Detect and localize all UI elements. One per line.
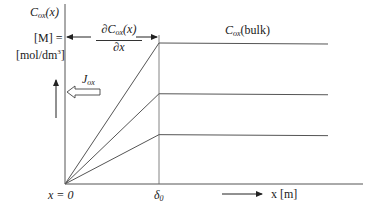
delta0-label: δ0: [154, 189, 164, 205]
profile-mid-concentration: [65, 94, 328, 184]
diffusion-layer-diagram: Cox(x) [M] = [mol/dm3] ∂Cox(x) ∂x Cox(bu…: [0, 0, 378, 213]
x-axis-label: x [m]: [271, 188, 297, 201]
profile-low-concentration: [65, 135, 328, 184]
gradient-label: ∂Cox(x) ∂x: [96, 23, 142, 54]
flux-label: Jox: [82, 73, 95, 89]
y-axis-label: Cox(x): [30, 6, 59, 22]
origin-label: x = 0: [48, 189, 73, 202]
bulk-label: Cox(bulk): [225, 24, 270, 40]
unit-label-line1: [M] =: [34, 32, 62, 45]
unit-label-line2: [mol/dm3]: [16, 46, 65, 62]
